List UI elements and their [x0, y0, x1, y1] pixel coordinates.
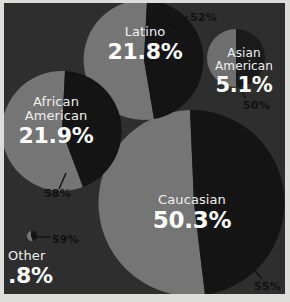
pie-asian-american: [207, 29, 265, 87]
pie-african-american: [4, 71, 122, 191]
pie-asian-slice-light: [207, 29, 236, 87]
leader-line-asian: [239, 85, 245, 98]
plot-area: Latino 21.8% Asian American 5.1% African…: [4, 3, 285, 294]
pie-latino-slice-dark: [144, 3, 204, 119]
pie-caucasian: [98, 110, 284, 294]
pie-chart-figure: Latino 21.8% Asian American 5.1% African…: [0, 0, 290, 302]
pie-chart-svg: [4, 3, 285, 294]
pie-caucasian-slice-dark: [190, 110, 284, 294]
pie-other: [27, 231, 37, 241]
pie-asian-slice-dark: [236, 29, 265, 87]
